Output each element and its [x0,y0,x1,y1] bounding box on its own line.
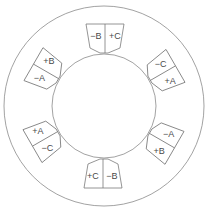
slot-upper-left-right-label: +B [43,56,54,66]
slot-top-left-label: −B [90,31,101,41]
slot-upper-left: −A +B [24,48,68,95]
slot-bottom-left-label: −B [106,171,117,181]
stator-diagram: −B +C −C +A −A +B −B +C −C +A −A +B [0,0,209,213]
slot-upper-right-left-label: −C [155,59,167,69]
slot-lower-left-left-label: −C [41,143,53,153]
slot-bottom-right-label: +C [87,171,99,181]
slot-lower-right: −A +B [140,117,184,164]
slot-upper-right: −C +A [141,49,185,96]
slot-top: −B +C [86,24,124,53]
slot-top-right-label: +C [109,31,121,41]
slot-lower-right-left-label: −A [163,129,174,139]
slot-bottom: −B +C [84,159,122,188]
inner-rotor-circle [52,54,156,158]
slot-lower-left: −C +A [23,115,67,162]
slot-lower-right-right-label: +B [153,146,164,156]
slot-upper-right-right-label: +A [164,76,175,86]
slot-upper-left-left-label: −A [34,73,45,83]
slot-lower-left-right-label: +A [32,126,43,136]
